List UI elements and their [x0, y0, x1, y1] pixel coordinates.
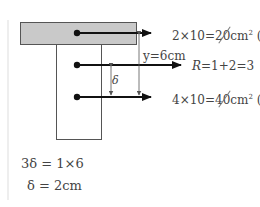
force-2-label: 4×10=40cm2 (2) — [172, 91, 260, 106]
force-1-unit: cm — [230, 29, 248, 43]
resultant-expr: =1+2=3 — [201, 59, 254, 73]
resultant-label: R=1+2=3 — [192, 60, 254, 72]
force-1-struck-digit: 0 — [223, 29, 231, 43]
force-2-prefix: 4×10=4 — [172, 93, 223, 107]
force-2-struck-digit: 0 — [223, 93, 231, 107]
equation-1: 3δ = 1×6 — [21, 158, 84, 170]
equation-2: δ = 2cm — [27, 180, 82, 192]
force-1-prefix: 2×10=2 — [172, 29, 223, 43]
force-1-label: 2×10=20cm2 (1) — [172, 27, 260, 42]
force-1-tag: (1) — [253, 29, 260, 43]
y-dimension-label: y=6cm — [143, 50, 186, 62]
force-2-unit: cm — [230, 93, 248, 107]
web-rect — [57, 45, 102, 140]
force-2-arrow — [74, 94, 151, 100]
delta-label: δ — [112, 75, 119, 87]
force-2-tag: (2) — [253, 93, 260, 107]
resultant-var: R — [192, 59, 201, 73]
